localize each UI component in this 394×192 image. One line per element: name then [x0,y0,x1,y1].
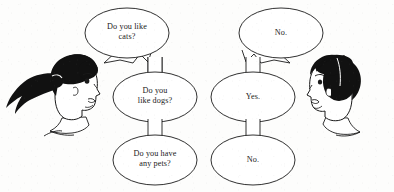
bubble-q2[interactable] [113,72,197,122]
bubble-q1[interactable] [85,8,169,58]
bubble-a2[interactable] [211,72,295,122]
character-boy[interactable] [303,52,391,140]
bubble-a1[interactable] [239,8,323,58]
bubble-a3[interactable] [211,135,295,185]
character-girl[interactable] [4,52,104,140]
bubble-q3[interactable] [113,135,197,185]
cartoon-scene: Do you like cats? Do you like dogs? Do y… [0,0,394,192]
